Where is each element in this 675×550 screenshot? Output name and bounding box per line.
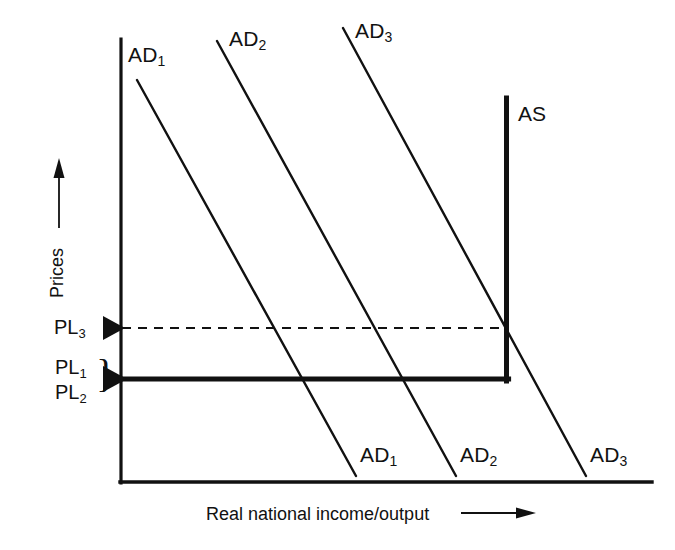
ad3-label-bottom: AD3 — [590, 444, 627, 468]
as-curve — [120, 98, 509, 381]
ad1-label-bottom: AD1 — [360, 444, 397, 468]
pl2-label-subscript: 2 — [79, 391, 86, 406]
pl1-label-text: PL — [55, 356, 79, 378]
pl3-label-subscript: 3 — [78, 326, 85, 341]
y-axis-label: Prices — [48, 248, 66, 298]
ad3-label-top-text: AD — [355, 19, 385, 42]
ad-as-diagram: Prices Real national income/output AD1 A… — [0, 0, 675, 550]
ad3-label-bottom-subscript: 3 — [620, 453, 628, 469]
ad2-label-bottom-subscript: 2 — [490, 453, 498, 469]
ad1-label-top-text: AD — [128, 43, 158, 66]
pl2-label-text: PL — [55, 381, 79, 403]
ad1-label-bottom-subscript: 1 — [390, 453, 398, 469]
diagram-canvas — [0, 0, 675, 550]
pl1-label-subscript: 1 — [79, 366, 86, 381]
ad3-label-bottom-text: AD — [590, 443, 620, 466]
ad1-label-bottom-text: AD — [360, 443, 390, 466]
ad2-label-top: AD2 — [229, 28, 266, 52]
ad3-curve — [343, 28, 586, 476]
ad1-label-top: AD1 — [128, 44, 165, 68]
y-axis-arrow-icon — [54, 158, 65, 228]
x-axis-arrow-icon — [461, 508, 536, 519]
as-label: AS — [518, 103, 546, 124]
pl1-label: PL1 — [55, 357, 87, 380]
ad2-label-top-text: AD — [229, 27, 259, 50]
pl3-label-text: PL — [54, 316, 78, 338]
ad3-label-top-subscript: 3 — [385, 29, 393, 45]
ad2-label-top-subscript: 2 — [259, 37, 267, 53]
ad1-label-top-subscript: 1 — [158, 53, 166, 69]
ad1-curve — [137, 80, 356, 476]
pl-group-brace: } — [96, 354, 115, 394]
x-axis-label: Real national income/output — [206, 505, 429, 523]
ad3-label-top: AD3 — [355, 20, 392, 44]
ad2-curve — [217, 41, 456, 476]
ad2-label-bottom: AD2 — [460, 444, 497, 468]
pl2-label: PL2 — [55, 382, 87, 405]
pl3-label: PL3 — [54, 317, 86, 340]
ad2-label-bottom-text: AD — [460, 443, 490, 466]
